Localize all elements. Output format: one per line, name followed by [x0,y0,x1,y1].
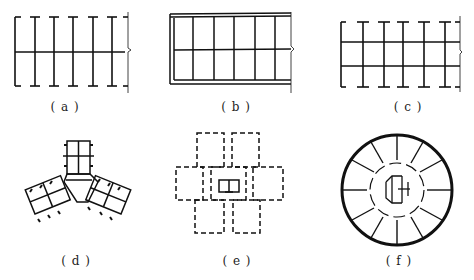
floor-plan-drawings [0,0,474,280]
panel-label-b: ( b ) [216,100,256,114]
panel-label-d: ( d ) [56,254,96,268]
panel-label-e: ( e ) [217,254,257,268]
plan-d [25,141,130,222]
plan-f [342,135,452,245]
plan-a [15,12,131,93]
panel-label-a: ( a ) [45,100,85,114]
panel-label-f: ( f ) [379,254,419,268]
panel-label-c: ( c ) [388,100,428,114]
plan-e-core [219,180,239,192]
plan-b [170,12,294,93]
plan-c [341,16,462,92]
